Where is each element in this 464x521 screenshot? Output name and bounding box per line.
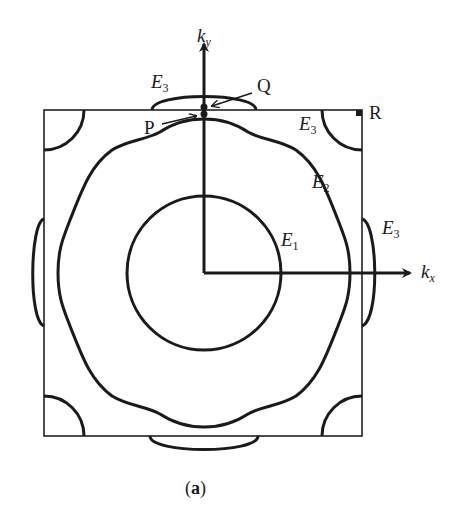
- e2-symbol: E: [312, 171, 324, 192]
- point-r-label: R: [369, 103, 382, 122]
- caption-close-paren: ): [200, 478, 206, 498]
- e1-label: E1: [281, 230, 299, 252]
- e2-label: E2: [312, 172, 330, 194]
- e3-symbol: E: [382, 217, 394, 238]
- fermi-surface-diagram: [0, 0, 464, 521]
- caption-letter: a: [191, 478, 200, 498]
- figure-caption: (a): [185, 478, 206, 499]
- e3-subscript: 3: [311, 123, 317, 137]
- e3-label-corner: E3: [299, 114, 317, 136]
- e3-subscript: 3: [163, 81, 169, 95]
- e3-symbol: E: [299, 113, 311, 134]
- e1-symbol: E: [281, 229, 293, 250]
- point-r-dot: [356, 110, 362, 116]
- e3-label-right: E3: [382, 218, 400, 240]
- e1-subscript: 1: [293, 239, 299, 253]
- e3-symbol: E: [151, 71, 163, 92]
- point-p-dot: [201, 111, 208, 118]
- e3-label-top: E3: [151, 72, 169, 94]
- e3-subscript: 3: [394, 227, 400, 241]
- kx-axis-label: kx: [421, 262, 435, 284]
- kx-subscript: x: [429, 271, 434, 285]
- e2-subscript: 2: [324, 181, 330, 195]
- ky-subscript: y: [205, 35, 210, 49]
- point-q-label: Q: [257, 76, 271, 95]
- ky-axis-label: ky: [197, 26, 211, 48]
- point-q-dot: [201, 104, 208, 111]
- point-p-label: P: [144, 118, 155, 137]
- q-pointer-arrow: [212, 93, 252, 106]
